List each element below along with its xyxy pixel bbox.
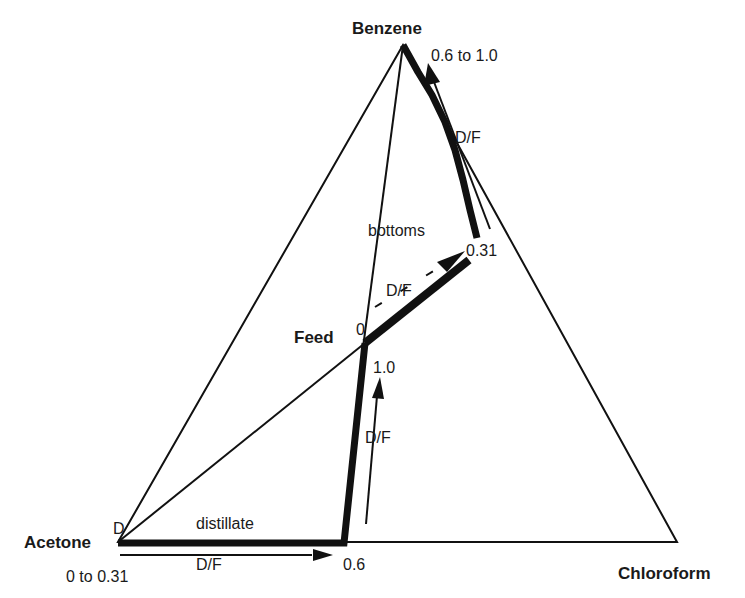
top-range-label: 0.6 to 1.0 [431, 48, 498, 64]
feed-zero-label: 0 [356, 322, 365, 338]
vertex-label-acetone: Acetone [24, 534, 91, 551]
distillate-point-label: D [113, 521, 125, 537]
left-range-label: 0 to 0.31 [66, 569, 128, 585]
vertical-arrow-line [366, 396, 377, 524]
acetone-feed-line [118, 343, 365, 542]
diagonal-ratio-label: D/F [386, 283, 412, 299]
feed-up-end-label: 1.0 [373, 360, 395, 376]
vertex-label-chloroform: Chloroform [618, 565, 711, 582]
upper-arrow-line [434, 82, 490, 229]
feed-label: Feed [294, 329, 334, 346]
bottoms-path-lower [365, 260, 469, 343]
top-ratio-label: D/F [455, 130, 481, 146]
bottom-end-label: 0.6 [343, 557, 365, 573]
bottoms-start-label: 0.31 [466, 243, 497, 259]
bottom-ratio-label: D/F [196, 557, 222, 573]
bottoms-label: bottoms [368, 223, 425, 239]
ternary-diagram [0, 0, 745, 598]
vertex-label-benzene: Benzene [352, 20, 422, 37]
vertical-ratio-label: D/F [365, 430, 391, 446]
benzene-feed-line [362, 45, 403, 355]
vertical-arrow-head [372, 377, 384, 399]
upper-arrow-head [424, 63, 440, 86]
bottom-arrow-head [313, 549, 333, 561]
distillate-label: distillate [196, 516, 254, 532]
